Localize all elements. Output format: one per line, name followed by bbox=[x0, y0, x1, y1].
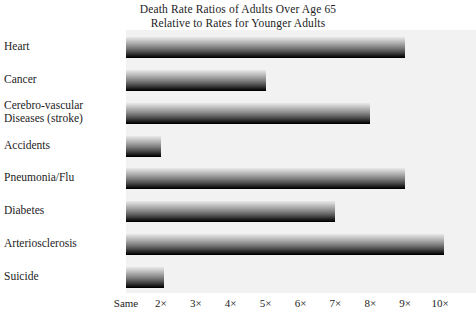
category-label: Heart bbox=[4, 40, 118, 53]
bar bbox=[126, 267, 164, 288]
x-tick-label: Same bbox=[114, 296, 138, 310]
bar-series bbox=[126, 30, 476, 293]
bar bbox=[126, 37, 405, 58]
bar bbox=[126, 168, 405, 189]
chart-title-line-1: Death Rate Ratios of Adults Over Age 65 bbox=[0, 3, 476, 17]
chart-screenshot: Death Rate Ratios of Adults Over Age 65 … bbox=[0, 0, 476, 321]
category-label: Pneumonia/Flu bbox=[4, 171, 118, 184]
category-label: Diabetes bbox=[4, 204, 118, 217]
x-tick-label: 2× bbox=[155, 296, 167, 310]
bar bbox=[126, 234, 444, 255]
x-tick-label: 3× bbox=[190, 296, 202, 310]
x-tick-label: 9× bbox=[399, 296, 411, 310]
bar bbox=[126, 136, 161, 157]
chart-title-line-2: Relative to Rates for Younger Adults bbox=[0, 17, 476, 31]
x-tick-label: 7× bbox=[330, 296, 342, 310]
bar bbox=[126, 70, 266, 91]
x-tick-label: 5× bbox=[260, 296, 272, 310]
bar bbox=[126, 103, 370, 124]
category-label: Arteriosclerosis bbox=[4, 237, 118, 250]
x-axis-tick-labels: Same2×3×4×5×6×7×8×9×10× bbox=[0, 296, 476, 316]
bar bbox=[126, 201, 335, 222]
x-tick-label: 8× bbox=[364, 296, 376, 310]
category-label: Cancer bbox=[4, 73, 118, 86]
category-axis-labels: HeartCancerCerebro-vascular Diseases (st… bbox=[0, 30, 120, 293]
x-tick-label: 10× bbox=[431, 296, 448, 310]
category-label: Suicide bbox=[4, 270, 118, 283]
category-label: Cerebro-vascular Diseases (stroke) bbox=[4, 99, 118, 125]
x-tick-label: 4× bbox=[225, 296, 237, 310]
category-label: Accidents bbox=[4, 139, 118, 152]
chart-title: Death Rate Ratios of Adults Over Age 65 … bbox=[0, 3, 476, 30]
x-tick-label: 6× bbox=[295, 296, 307, 310]
